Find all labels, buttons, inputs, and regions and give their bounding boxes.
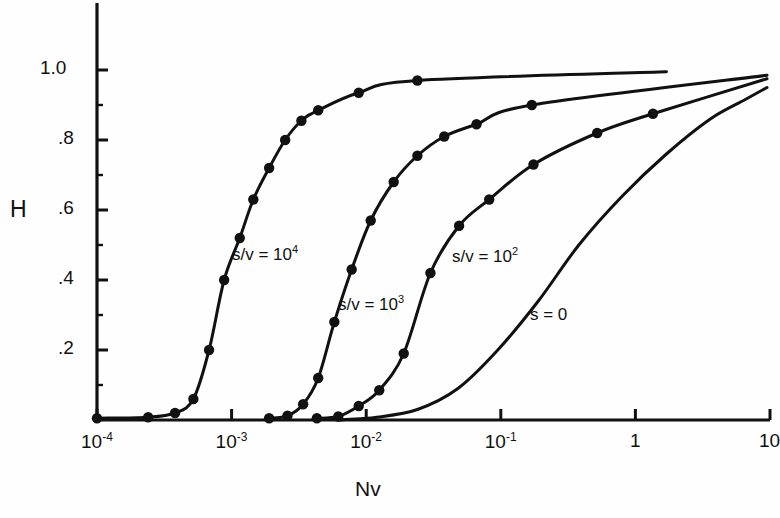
x-tick-label: 10 [759,430,780,452]
data-point-marker [204,345,214,355]
data-point-marker [280,135,290,145]
data-point-marker [296,116,306,126]
data-point-marker [170,408,180,418]
data-point-marker [388,177,398,187]
data-point-marker [346,264,356,274]
data-markers [92,75,658,423]
y-axis-ticks [97,70,108,385]
data-point-marker [425,268,435,278]
data-point-marker [648,109,658,119]
x-axis-ticks [97,409,770,420]
data-point-marker [454,221,464,231]
data-point-marker [354,88,364,98]
data-point-marker [333,411,343,421]
data-point-marker [235,233,245,243]
x-tick-label: 10-3 [216,430,248,453]
curve-label: s/v = 103 [338,293,404,315]
data-point-marker [92,413,102,423]
data-point-marker [312,413,322,423]
data-point-marker [412,151,422,161]
curve-s-0 [338,88,767,421]
x-tick-label: 10-4 [81,430,113,453]
data-point-marker [313,105,323,115]
data-point-marker [412,75,422,85]
curve-label: s = 0 [530,305,567,325]
curve-label: s/v = 104 [232,243,298,265]
data-point-marker [354,401,364,411]
data-point-marker [298,399,308,409]
curve-s-v-10-2 [317,79,767,419]
x-tick-label: 1 [630,430,641,452]
data-point-marker [471,119,481,129]
data-point-marker [374,385,384,395]
data-point-marker [143,412,153,422]
data-point-marker [248,194,258,204]
data-point-marker [264,413,274,423]
data-point-marker [484,194,494,204]
data-point-marker [399,348,409,358]
data-point-marker [366,215,376,225]
data-point-marker [219,275,229,285]
y-tick-label: .6 [58,197,74,219]
curve-label: s/v = 102 [452,245,518,267]
x-tick-label: 10-1 [485,430,517,453]
y-tick-label: .8 [58,127,74,149]
data-curves [97,72,767,420]
data-point-marker [188,394,198,404]
y-tick-label: .4 [58,267,74,289]
data-point-marker [439,131,449,141]
data-point-marker [313,373,323,383]
curve-s-v-10-4 [97,72,666,419]
data-point-marker [329,317,339,327]
y-axis-label: H [10,196,27,223]
y-tick-label: .2 [58,337,74,359]
axis-lines [97,3,770,420]
x-axis-label: Nv [355,477,381,501]
x-tick-label: 10-2 [350,430,382,453]
data-point-marker [264,163,274,173]
data-point-marker [282,411,292,421]
data-point-marker [528,159,538,169]
data-point-marker [592,128,602,138]
y-tick-label: 1.0 [40,57,66,79]
data-point-marker [527,100,537,110]
